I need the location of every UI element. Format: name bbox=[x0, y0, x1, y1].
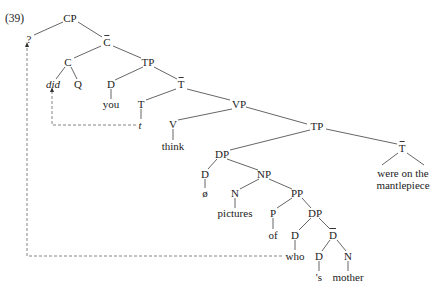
example-number: (39) bbox=[5, 12, 24, 24]
node-v: V bbox=[169, 118, 177, 130]
node-c: C bbox=[64, 56, 71, 68]
node-d: D bbox=[201, 168, 209, 180]
node-p: P bbox=[270, 207, 276, 219]
node-tp: TP bbox=[311, 120, 324, 132]
node-tp: TP bbox=[142, 56, 155, 68]
movement-arrow-did bbox=[52, 91, 136, 125]
node-n: N bbox=[231, 187, 239, 199]
node-t: T bbox=[138, 98, 145, 110]
word-mother: mother bbox=[332, 271, 363, 283]
node-q: Q bbox=[74, 78, 82, 90]
node-question-mark: ? bbox=[27, 33, 32, 45]
node-cp: CP bbox=[63, 12, 76, 24]
word-you: you bbox=[103, 98, 120, 110]
node-d: D bbox=[107, 78, 115, 90]
node-d-bar: D bbox=[329, 229, 337, 241]
node-t-bar: T bbox=[399, 142, 406, 154]
phrase-were-on-the: were on the bbox=[377, 167, 428, 179]
node-dp: DP bbox=[308, 207, 322, 219]
node-d: D bbox=[291, 229, 299, 241]
node-t-bar: T bbox=[178, 78, 185, 90]
word-pictures: pictures bbox=[218, 207, 253, 219]
null-determiner: ø bbox=[202, 187, 208, 199]
trace-t: t bbox=[138, 119, 141, 131]
phrase-mantlepiece: mantlepiece bbox=[376, 179, 429, 191]
node-c-bar: C bbox=[103, 36, 110, 48]
node-dp: DP bbox=[215, 148, 229, 160]
node-np: NP bbox=[257, 168, 271, 180]
word-who: who bbox=[286, 250, 305, 262]
node-pp: PP bbox=[291, 187, 303, 199]
word-of: of bbox=[268, 229, 277, 241]
node-vp: VP bbox=[232, 98, 246, 110]
word-did: did bbox=[46, 78, 60, 90]
movement-arrow-who bbox=[27, 46, 282, 256]
word-think: think bbox=[162, 140, 185, 152]
word-possessive-s: 's bbox=[316, 271, 322, 283]
node-d: D bbox=[315, 250, 323, 262]
node-n: N bbox=[344, 250, 352, 262]
